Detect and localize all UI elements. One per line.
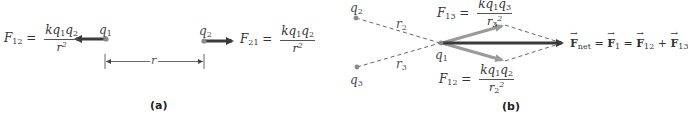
dashed-parallelogram-bottom: [505, 43, 562, 61]
net-force-equation: Fnet = F1 = F12 + F13: [570, 38, 688, 51]
charge-dot-q2: [201, 38, 206, 43]
charge-label-q1-b: q1: [435, 49, 448, 63]
charge-label-q3-b: q3: [350, 74, 363, 88]
equation-f13-b: F13 = kq1q3 r32: [437, 0, 512, 29]
distance-label-r: r: [151, 55, 156, 66]
force-arrow-f12-b: [442, 43, 502, 60]
equation-f12-a: F12 = kq1q2 r2: [4, 24, 79, 53]
fraction: kq1q2 r2: [44, 24, 79, 53]
distance-label-r2: r2: [396, 18, 407, 32]
equation-f12-b: F12 = kq1q2 r22: [439, 64, 514, 95]
fraction: kq1q2 r22: [479, 64, 514, 95]
caption-b: (b): [502, 100, 520, 113]
fraction: kq1q3 r32: [477, 0, 512, 29]
caption-a: (a): [150, 99, 167, 112]
fraction: kq1q2 r2: [280, 25, 315, 54]
dashed-parallelogram-top: [505, 25, 562, 43]
charge-dot-q3-b: [355, 65, 360, 70]
distance-label-r3: r3: [396, 58, 407, 72]
charge-dot-q2-b: [354, 16, 359, 21]
charge-label-q2-b: q2: [350, 2, 363, 16]
charge-label-q1: q1: [99, 24, 112, 38]
charge-label-q2: q2: [199, 25, 212, 39]
charge-dot-q1-b: [439, 41, 444, 46]
equation-f21-a: F21 = kq1q2 r2: [240, 25, 315, 54]
